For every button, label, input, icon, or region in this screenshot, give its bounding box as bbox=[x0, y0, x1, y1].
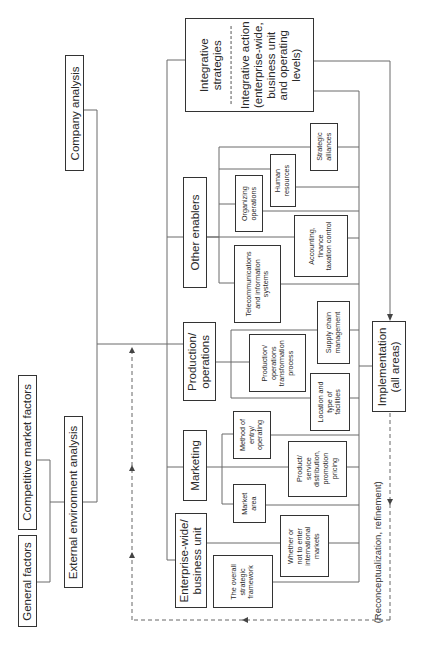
competitive-market-factors-box: Competitive market factors bbox=[18, 375, 37, 530]
method-of-entry-box: Method of entry/ operating bbox=[233, 411, 271, 459]
accounting-line3: taxation control bbox=[325, 222, 334, 271]
product-line5: pricing bbox=[330, 451, 339, 488]
organizing-operations-line2: operations bbox=[249, 186, 258, 221]
product-service-box: Product/ service distribution, promotion… bbox=[288, 441, 347, 497]
integrative-action-line2: (enterprise-wide, bbox=[251, 21, 264, 109]
market-area-box: Market area bbox=[233, 484, 266, 523]
human-resources-line2: resources bbox=[283, 165, 292, 197]
accounting-line1: Accounting, bbox=[308, 222, 317, 271]
other-enablers-label: Other enablers bbox=[189, 194, 202, 270]
implementation-line2: (all areas) bbox=[389, 327, 402, 406]
implementation-line1: Implementation bbox=[376, 327, 389, 406]
strategic-alliances-box: Strategic alliances bbox=[310, 123, 338, 171]
human-resources-box: Human resources bbox=[270, 154, 296, 207]
strategy-framework-diagram: General factors Competitive market facto… bbox=[0, 0, 421, 654]
marketing-box: Marketing bbox=[183, 430, 207, 501]
production-operations-box: Production/ operations bbox=[183, 322, 216, 401]
intl-line4: markets bbox=[313, 526, 322, 565]
international-markets-box: Whether or not to enter international ma… bbox=[280, 515, 329, 577]
strategic-alliances-line2: alliances bbox=[324, 133, 333, 161]
organizing-operations-line1: Organizing bbox=[240, 186, 249, 221]
telecom-line3: systems bbox=[262, 251, 271, 316]
production-operations-line2: operations bbox=[200, 332, 213, 390]
integrative-strategies-label: Integrative strategies bbox=[197, 25, 222, 105]
market-area-line2: area bbox=[250, 493, 259, 515]
external-environment-analysis-label: External environment analysis bbox=[67, 425, 80, 578]
location-facilities-box: Location and type of facilities bbox=[310, 373, 350, 431]
framework-line3: framework bbox=[247, 564, 256, 600]
integrative-action-line4: and operating bbox=[276, 21, 289, 109]
company-analysis-box: Company analysis bbox=[65, 55, 84, 171]
general-factors-box: General factors bbox=[18, 535, 37, 627]
enterprise-wide-box: Enterprise-wide/ business unit bbox=[175, 513, 207, 608]
integrative-strategies-box: Integrative strategies Integrative actio… bbox=[185, 18, 314, 112]
location-line3: facilities bbox=[334, 381, 343, 422]
general-factors-label: General factors bbox=[21, 542, 34, 621]
transformation-line4: process bbox=[286, 340, 295, 386]
dashed-separator bbox=[231, 26, 232, 104]
organizing-operations-box: Organizing operations bbox=[235, 175, 263, 232]
company-analysis-label: Company analysis bbox=[68, 66, 81, 160]
telecommunications-box: Telecommunications and information syste… bbox=[234, 245, 281, 323]
strategic-framework-box: The overall strategic framework bbox=[213, 555, 273, 608]
competitive-market-factors-label: Competitive market factors bbox=[21, 384, 34, 521]
feedback-label: (Reconceptualization, refinement) bbox=[373, 483, 384, 623]
supply-chain-line2: management bbox=[334, 312, 343, 354]
integrative-action-line1: Integrative action bbox=[239, 21, 252, 109]
supply-chain-box: Supply chain management bbox=[317, 301, 350, 364]
enterprise-wide-line1: Enterprise-wide/ bbox=[178, 519, 191, 602]
production-operations-line1: Production/ bbox=[187, 332, 200, 390]
method-line3: operating bbox=[256, 419, 265, 451]
accounting-finance-box: Accounting, finance taxation control bbox=[294, 215, 348, 277]
marketing-label: Marketing bbox=[189, 440, 202, 491]
transformation-process-box: Production/ operations transformation pr… bbox=[249, 334, 306, 392]
other-enablers-box: Other enablers bbox=[183, 177, 207, 288]
external-environment-analysis-box: External environment analysis bbox=[64, 416, 83, 588]
transformation-line1: Production/ bbox=[260, 340, 269, 386]
integrative-action-line5: levels) bbox=[289, 21, 302, 109]
integrative-action-line3: business unit bbox=[264, 21, 277, 109]
implementation-box: Implementation (all areas) bbox=[372, 321, 406, 412]
market-area-line1: Market bbox=[241, 493, 250, 515]
enterprise-wide-line2: business unit bbox=[191, 519, 204, 602]
supply-chain-line1: Supply chain bbox=[325, 312, 334, 354]
